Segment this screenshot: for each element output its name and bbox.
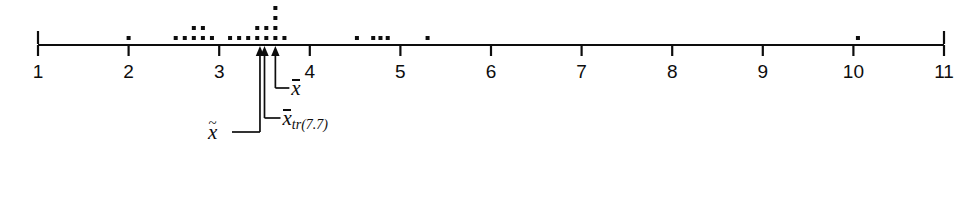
data-dot [355, 36, 359, 40]
statistic-arrows [256, 46, 280, 132]
axis-tick-label: 5 [380, 62, 420, 81]
data-dot [273, 36, 277, 40]
data-dot [183, 36, 187, 40]
data-dot [255, 26, 259, 30]
axis-tick-label: 2 [109, 62, 149, 81]
data-dot [282, 36, 286, 40]
axis-ticks [38, 45, 944, 56]
axis-tick-label: 7 [562, 62, 602, 81]
dotplot-figure: 1234567891011xxtr(7.7)x~ [0, 0, 971, 197]
data-dot [273, 26, 277, 30]
tilde-accent: ~ [208, 116, 217, 131]
overbar-accent [283, 109, 291, 111]
data-dot [228, 36, 232, 40]
axis-tick-label: 10 [833, 62, 873, 81]
data-dot [192, 36, 196, 40]
data-dot [264, 26, 268, 30]
arrow-head-mean [271, 46, 279, 56]
data-dot [246, 36, 250, 40]
data-dot [273, 6, 277, 10]
median-label: x~ [208, 122, 217, 143]
data-dot [273, 16, 277, 20]
data-dot [237, 36, 241, 40]
data-dot [174, 36, 178, 40]
data-dot [192, 26, 196, 30]
data-dot [255, 36, 259, 40]
axis-tick-label: 6 [471, 62, 511, 81]
overbar-accent [292, 79, 300, 81]
axis-tick-label: 8 [652, 62, 692, 81]
data-dot [201, 36, 205, 40]
dotplot-canvas [0, 0, 971, 197]
data-dot [210, 36, 214, 40]
axis-tick-label: 3 [199, 62, 239, 81]
dot-field [127, 6, 860, 40]
data-dot [426, 36, 430, 40]
mean-label: x [291, 78, 300, 99]
data-dot [127, 36, 131, 40]
trimmed-mean-label: xtr(7.7) [283, 108, 329, 129]
axis-tick-label: 9 [743, 62, 783, 81]
data-dot [856, 36, 860, 40]
axis-tick-label: 1 [18, 62, 58, 81]
data-dot [264, 36, 268, 40]
trimmed-mean-label-subscript: tr(7.7) [292, 117, 328, 132]
data-dot [371, 36, 375, 40]
data-dot [201, 26, 205, 30]
data-dot [386, 36, 390, 40]
data-dot [378, 36, 382, 40]
axis-tick-label: 11 [924, 62, 964, 81]
